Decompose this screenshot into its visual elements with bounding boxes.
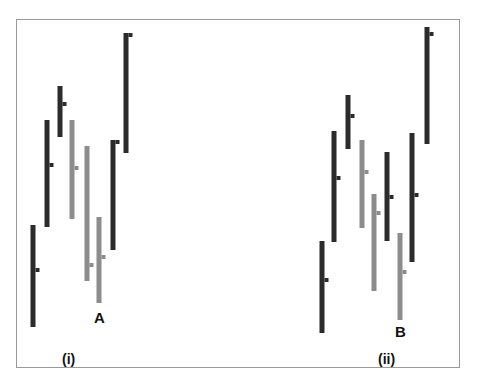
close-tick (351, 114, 355, 118)
ohlc-bar (332, 131, 337, 242)
ohlc-bar (346, 95, 351, 149)
close-tick (415, 193, 419, 197)
close-tick (403, 270, 407, 274)
close-tick (63, 102, 67, 106)
ohlc-bar (70, 120, 75, 219)
close-tick (129, 33, 133, 37)
ohlc-bar (410, 133, 415, 262)
ohlc-chart (0, 0, 479, 387)
close-tick (365, 170, 369, 174)
ohlc-bar (58, 86, 63, 137)
panel-1 (31, 33, 133, 327)
ohlc-bar (97, 217, 102, 303)
close-tick (430, 32, 434, 36)
close-tick (377, 211, 381, 215)
close-tick (90, 263, 94, 267)
ohlc-bar (425, 27, 430, 144)
ohlc-bar (124, 33, 129, 153)
close-tick (75, 166, 79, 170)
panel-2 (320, 27, 434, 333)
ohlc-bar (360, 140, 365, 228)
ohlc-bar (45, 120, 50, 227)
close-tick (390, 195, 394, 199)
ohlc-bar (31, 225, 36, 327)
close-tick (102, 255, 106, 259)
ohlc-bar (85, 146, 90, 281)
ohlc-bar (385, 152, 390, 241)
panel-ii-label: (ii) (378, 351, 395, 367)
ohlc-bar (372, 194, 377, 291)
ohlc-bar (111, 140, 116, 250)
point-a-label: A (94, 309, 105, 326)
panel-i-label: (i) (62, 351, 75, 367)
point-b-label: B (395, 323, 406, 340)
close-tick (36, 268, 40, 272)
close-tick (337, 176, 341, 180)
close-tick (50, 163, 54, 167)
close-tick (325, 278, 329, 282)
ohlc-bar (320, 241, 325, 333)
ohlc-bar (398, 233, 403, 320)
close-tick (116, 140, 120, 144)
